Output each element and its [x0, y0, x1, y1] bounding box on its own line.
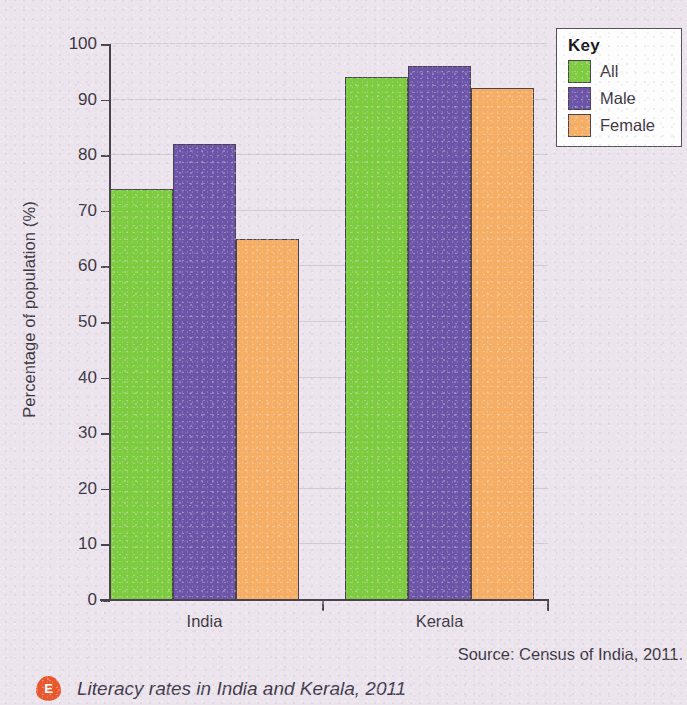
y-axis-title: Percentage of population (%)	[20, 160, 39, 460]
x-axis-label-kerala: Kerala	[416, 612, 464, 631]
chart-figure: Percentage of population (%) 01020304050…	[0, 0, 687, 705]
caption-text: Literacy rates in India and Kerala, 2011	[77, 678, 406, 700]
legend-swatch-male	[568, 87, 591, 110]
legend-title: Key	[568, 36, 672, 56]
y-tick-label: 60	[78, 256, 97, 276]
y-tick-label: 30	[78, 423, 97, 443]
y-tick-mark	[101, 544, 110, 546]
legend-item-female: Female	[568, 114, 672, 137]
figure-caption: E Literacy rates in India and Kerala, 20…	[36, 676, 406, 701]
bar-india-male	[173, 144, 236, 600]
legend-entries: AllMaleFemale	[568, 60, 672, 137]
group-separator-tick	[322, 599, 324, 611]
y-tick-mark	[101, 211, 110, 213]
bar-kerala-female	[471, 88, 534, 600]
y-tick-mark	[101, 489, 110, 491]
x-axis-end-tick	[547, 599, 549, 611]
legend-item-all: All	[568, 60, 672, 83]
y-tick-label: 0	[88, 590, 97, 610]
legend-label-male: Male	[600, 89, 636, 108]
x-axis-label-india: India	[187, 612, 223, 631]
caption-badge-icon: E	[36, 676, 61, 701]
source-note: Source: Census of India, 2011.	[458, 645, 683, 664]
y-tick-mark	[101, 433, 110, 435]
bar-kerala-all	[345, 77, 408, 600]
y-tick-mark	[101, 600, 110, 602]
legend-box: Key AllMaleFemale	[556, 28, 682, 147]
y-tick-label: 90	[78, 90, 97, 110]
bar-india-female	[236, 239, 299, 600]
bar-kerala-male	[408, 66, 471, 600]
y-tick-mark	[101, 155, 110, 157]
legend-swatch-female	[568, 114, 591, 137]
legend-label-all: All	[600, 62, 618, 81]
y-tick-mark	[101, 100, 110, 102]
y-tick-label: 40	[78, 368, 97, 388]
y-tick-mark	[101, 322, 110, 324]
y-tick-label: 20	[78, 479, 97, 499]
y-tick-label: 70	[78, 201, 97, 221]
y-tick-label: 100	[69, 34, 97, 54]
legend-label-female: Female	[600, 116, 655, 135]
plot-area: 0102030405060708090100	[110, 44, 548, 600]
y-tick-label: 50	[78, 312, 97, 332]
y-tick-mark	[101, 266, 110, 268]
legend-swatch-all	[568, 60, 591, 83]
bar-india-all	[110, 189, 173, 600]
gridline	[110, 43, 548, 44]
legend-item-male: Male	[568, 87, 672, 110]
y-tick-label: 80	[78, 145, 97, 165]
y-tick-mark	[101, 44, 110, 46]
y-tick-mark	[101, 378, 110, 380]
y-tick-label: 10	[78, 534, 97, 554]
